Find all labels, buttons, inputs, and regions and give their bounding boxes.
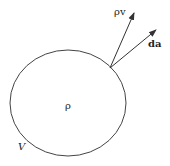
control-volume-diagram: ρv da ρ V xyxy=(0,0,170,166)
density-label: ρ xyxy=(65,100,71,111)
volume-label: V xyxy=(18,141,27,152)
area-vector-arrow xyxy=(110,30,156,68)
flux-vector-arrow xyxy=(110,13,134,68)
diagram-svg: ρv da ρ V xyxy=(0,0,170,166)
area-vector-label: da xyxy=(148,38,162,49)
flux-vector-label: ρv xyxy=(114,6,126,17)
